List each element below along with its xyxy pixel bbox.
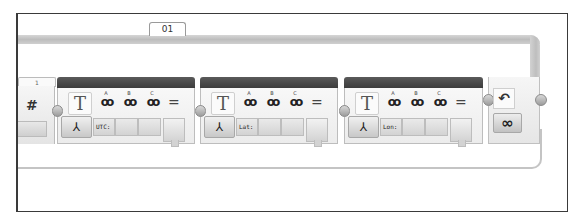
input-a-field[interactable]: Lat:	[236, 118, 258, 136]
link-icon-c: Coo	[286, 90, 304, 109]
input-row: Lat:	[236, 118, 304, 136]
result-output[interactable]	[163, 118, 185, 142]
loop-name-tab[interactable]: 01	[149, 22, 186, 36]
input-a-field[interactable]: UTC:	[93, 118, 115, 136]
loop-arrow-icon: ↶	[493, 88, 515, 109]
block-header	[200, 77, 338, 88]
loop-top-bar	[18, 35, 540, 44]
input-row: UTC:	[93, 118, 161, 136]
mode-selector-merge[interactable]: ⅄	[348, 116, 379, 138]
merge-icon: ⅄	[73, 120, 80, 134]
input-a-field[interactable]: Lon:	[380, 118, 402, 136]
numeric-block-body: #	[18, 86, 55, 144]
input-c-field[interactable]	[138, 118, 161, 136]
numeric-block[interactable]: 1 #	[18, 77, 55, 144]
input-b-field[interactable]	[402, 118, 425, 136]
link-icon-c: Coo	[430, 90, 448, 109]
equals-icon: =	[311, 94, 323, 110]
link-icon-b: Boo	[407, 90, 425, 109]
block-header	[344, 77, 483, 88]
block-header	[57, 77, 195, 88]
input-b-field[interactable]	[258, 118, 281, 136]
loop-end-block[interactable]: ↶ ∞	[488, 77, 540, 157]
sequence-out-connector[interactable]	[535, 94, 547, 106]
merge-icon: ⅄	[216, 120, 223, 134]
link-icon-a: Aoo	[240, 90, 258, 109]
block-body: T ⅄ Aoo Boo Coo = Lon:	[344, 88, 483, 144]
block-body: T ⅄ Aoo Boo Coo = Lat:	[200, 88, 338, 144]
hash-icon: #	[26, 97, 38, 113]
text-icon: T	[355, 92, 379, 115]
merge-icon: ⅄	[360, 120, 367, 134]
link-icon-a: Aoo	[97, 90, 115, 109]
program-canvas: 01 1 # T ⅄ Aoo Boo Coo = UTC:	[16, 13, 568, 212]
input-row: Lon:	[380, 118, 448, 136]
input-b-field[interactable]	[115, 118, 138, 136]
mode-selector-merge[interactable]: ⅄	[204, 116, 235, 138]
sequence-plug	[18, 121, 47, 137]
link-icon-a: Aoo	[384, 90, 402, 109]
link-icon-b: Boo	[120, 90, 138, 109]
input-c-field[interactable]	[425, 118, 448, 136]
block-body: T ⅄ Aoo Boo Coo = UTC:	[57, 88, 195, 144]
text-icon: T	[211, 92, 235, 115]
text-icon: T	[68, 92, 92, 115]
link-icon-b: Boo	[263, 90, 281, 109]
input-c-field[interactable]	[281, 118, 304, 136]
loop-mode-unlimited-button[interactable]: ∞	[493, 113, 522, 133]
result-output[interactable]	[450, 118, 472, 142]
result-output[interactable]	[306, 118, 328, 142]
mode-selector-merge[interactable]: ⅄	[61, 116, 92, 138]
text-block-utc[interactable]: T ⅄ Aoo Boo Coo = UTC:	[57, 77, 195, 157]
equals-icon: =	[455, 94, 467, 110]
text-block-lon[interactable]: T ⅄ Aoo Boo Coo = Lon:	[344, 77, 483, 157]
loop-end-body: ↶ ∞	[488, 77, 540, 144]
link-icon-c: Coo	[143, 90, 161, 109]
text-block-lat[interactable]: T ⅄ Aoo Boo Coo = Lat:	[200, 77, 338, 157]
equals-icon: =	[168, 94, 180, 110]
